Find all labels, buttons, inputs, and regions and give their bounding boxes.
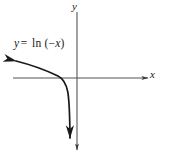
log-curve [16,61,70,138]
logarithm-graph-figure: y x y= ln (−x) [0,0,171,156]
y-axis-label: y [72,1,77,12]
equation-equals: = [19,37,29,49]
plot-canvas [0,0,171,156]
equation-close-paren: ) [61,37,65,49]
curve-equation-label: y= ln (−x) [14,38,65,50]
x-axis-label: x [150,69,155,80]
equation-function: ln [32,37,41,49]
